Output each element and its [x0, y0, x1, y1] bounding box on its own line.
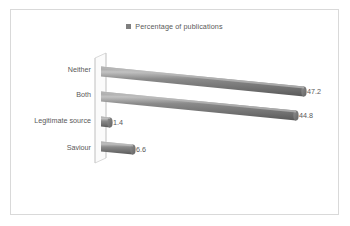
value-label-legitimate-source: 1.4: [113, 118, 123, 127]
category-label-legitimate-source: Legitimate source: [34, 116, 91, 125]
bar-legitimate-source[interactable]: [101, 117, 113, 128]
bar-chart-svg: Neither Both Legitimate source Saviour 4…: [11, 10, 340, 216]
plot-area: Neither Both Legitimate source Saviour 4…: [11, 10, 340, 216]
bar-neither[interactable]: [101, 67, 307, 97]
category-label-both: Both: [76, 90, 91, 99]
value-label-neither: 47.2: [307, 87, 321, 96]
category-label-saviour: Saviour: [67, 143, 92, 152]
value-label-saviour: 6.6: [136, 145, 146, 154]
chart-frame: Percentage of publications: [10, 9, 339, 215]
bar-both[interactable]: [101, 92, 299, 121]
value-label-both: 44.8: [299, 111, 313, 120]
category-label-neither: Neither: [68, 65, 92, 74]
